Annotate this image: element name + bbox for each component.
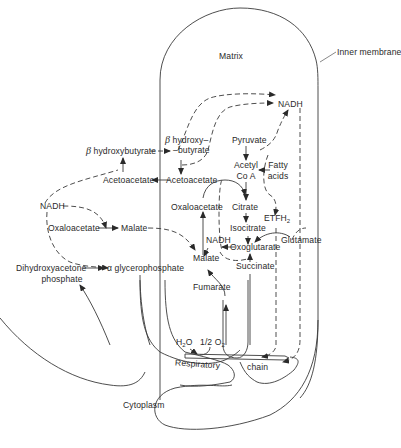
cyto-acetoacetate: Acetoacetate — [103, 176, 154, 185]
cyto-alpha-glycerophosphate: α glycerophosphate — [107, 264, 184, 273]
chain-label: chain — [247, 363, 268, 372]
matrix-nadh-mid: NADH — [206, 236, 231, 245]
cyto-nadh: NADH — [40, 202, 65, 211]
cyto-beta-hydroxybutyrate: β hydroxybutyrate — [86, 146, 156, 156]
matrix-nadh-top: NADH — [278, 100, 303, 109]
matrix-etfh2: ETFH2 — [264, 214, 290, 224]
inner-membrane-label: Inner membrane — [337, 48, 401, 57]
matrix-glutamate: Glutamate — [281, 236, 322, 245]
matrix-succinate: Succinate — [236, 262, 275, 271]
cytoplasm-label: Cytoplasm — [123, 401, 165, 410]
cyto-oxaloacetate: Oxaloacetate — [48, 224, 100, 233]
matrix-oxaloacetate: Oxaloacetate — [171, 203, 223, 212]
cyto-dihydroxyacetone-phosphate: Dihydroxyacetone phosphate — [16, 264, 86, 283]
matrix-citrate: Citrate — [232, 203, 258, 212]
cyto-malate: Malate — [121, 224, 147, 233]
matrix-isocitrate: Isocitrate — [230, 224, 266, 233]
matrix-fatty-acids: Fatty acids — [264, 161, 292, 180]
water-label: H2O — [176, 338, 193, 348]
matrix-oxoglutarate: Oxoglutarate — [230, 243, 280, 252]
matrix-label: Matrix — [219, 52, 243, 61]
matrix-pyruvate: Pyruvate — [232, 136, 267, 145]
oxygen-label: 1/2 O2 — [200, 338, 225, 348]
matrix-acetyl-coa: Acetyl Co A — [231, 161, 261, 180]
outer-fold-1 — [0, 318, 145, 386]
matrix-acetoacetate: Acetoacetate — [166, 176, 217, 185]
matrix-beta-hydroxybutyrate: β hydroxy– –butyrate — [165, 135, 210, 155]
matrix-malate: Malate — [193, 254, 219, 263]
matrix-fumarate: Fumarate — [193, 283, 231, 292]
